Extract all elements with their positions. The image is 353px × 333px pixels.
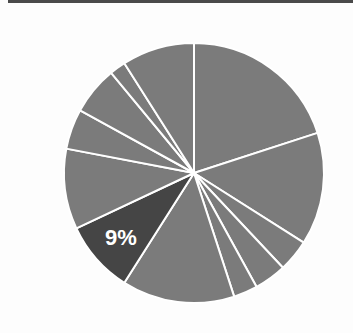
pie-chart: 9% [0, 0, 353, 333]
highlight-slice-label: 9% [105, 225, 137, 250]
pie-slices [64, 43, 324, 303]
